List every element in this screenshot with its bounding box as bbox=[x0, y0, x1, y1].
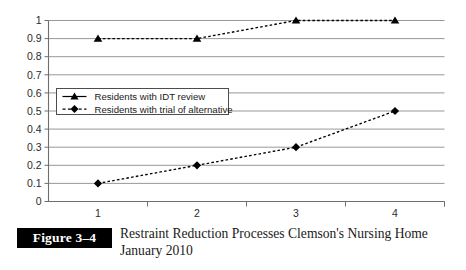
figure-container: 00.10.20.30.40.50.60.70.80.91 1234 Resid… bbox=[0, 0, 466, 270]
y-axis-tick-label: 0 bbox=[36, 195, 42, 207]
y-axis-tick-label: 0.1 bbox=[27, 177, 42, 189]
triangle-marker bbox=[391, 16, 400, 23]
legend-entry-label: Residents with trial of alternative bbox=[95, 104, 233, 115]
x-axis-tick-label: 4 bbox=[392, 207, 398, 219]
y-axis-tick-label: 0.8 bbox=[27, 50, 42, 62]
caption-line-2: January 2010 bbox=[120, 243, 460, 260]
y-axis-tick-label: 0.5 bbox=[27, 105, 42, 117]
diamond-marker bbox=[391, 107, 399, 115]
x-axis-tick-label: 1 bbox=[95, 207, 101, 219]
y-axis-tick-label: 0.2 bbox=[27, 159, 42, 171]
triangle-marker bbox=[94, 35, 103, 42]
y-axis-tick-label: 1 bbox=[36, 14, 42, 26]
y-axis-ticks-group bbox=[45, 21, 49, 202]
y-axis-tick-label: 0.6 bbox=[27, 87, 42, 99]
x-axis-tick-label: 3 bbox=[293, 207, 299, 219]
figure-caption: Figure 3–4 Restraint Reduction Processes… bbox=[0, 224, 466, 270]
figure-number-badge: Figure 3–4 bbox=[17, 228, 112, 248]
chart-legend: Residents with IDT reviewResidents with … bbox=[57, 89, 233, 115]
diamond-marker bbox=[292, 143, 300, 151]
series-line bbox=[98, 21, 395, 39]
diamond-marker bbox=[94, 179, 102, 187]
y-axis-labels-group: 00.10.20.30.40.50.60.70.80.91 bbox=[27, 14, 42, 207]
y-axis-tick-label: 0.3 bbox=[27, 141, 42, 153]
figure-caption-text: Restraint Reduction Processes Clemson's … bbox=[120, 226, 460, 259]
chart-plot-region: 00.10.20.30.40.50.60.70.80.91 1234 Resid… bbox=[0, 0, 466, 222]
line-chart: 00.10.20.30.40.50.60.70.80.91 1234 Resid… bbox=[0, 0, 466, 222]
x-axis-labels-group: 1234 bbox=[95, 207, 398, 219]
y-axis-tick-label: 0.4 bbox=[27, 123, 42, 135]
caption-line-1: Restraint Reduction Processes Clemson's … bbox=[120, 226, 460, 243]
y-axis-tick-label: 0.9 bbox=[27, 32, 42, 44]
diamond-marker bbox=[193, 161, 201, 169]
legend-entry-label: Residents with IDT review bbox=[95, 91, 206, 102]
x-axis-tick-label: 2 bbox=[194, 207, 200, 219]
y-axis-tick-label: 0.7 bbox=[27, 69, 42, 81]
